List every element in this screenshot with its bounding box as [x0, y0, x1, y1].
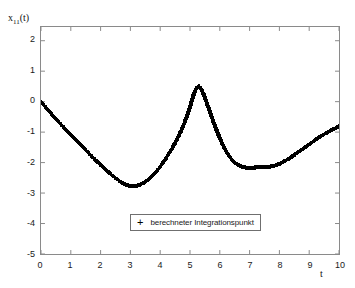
y-tick-label: -4	[19, 219, 35, 228]
x-tick-label: 8	[273, 261, 287, 270]
x-tick-label: 0	[33, 261, 47, 270]
y-axis-label-suffix: (t)	[20, 12, 29, 23]
y-tick-label: -3	[19, 189, 35, 198]
y-tick-label: -1	[19, 127, 35, 136]
x-axis-label: t	[320, 268, 323, 279]
y-tick-label: -2	[19, 158, 35, 167]
x-tick-label: 1	[63, 261, 77, 270]
y-axis-label: x11(t)	[8, 12, 29, 26]
legend-marker-plus-icon: +	[137, 217, 143, 228]
y-tick-label: -5	[19, 250, 35, 259]
legend-entry-label: berechneter Integrationspunkt	[150, 218, 253, 227]
y-tick-label: 2	[19, 35, 35, 44]
chart-legend: + berechneter Integrationspunkt	[130, 214, 261, 231]
x-tick-label: 10	[333, 261, 347, 270]
x-tick-label: 7	[243, 261, 257, 270]
x-tick-label: 5	[183, 261, 197, 270]
x-tick-label: 2	[93, 261, 107, 270]
x-tick-label: 4	[153, 261, 167, 270]
x-tick-label: 6	[213, 261, 227, 270]
x-tick-label: 3	[123, 261, 137, 270]
chart-screenshot: x11(t) t 210-1-2-3-4-5 012345678910 + be…	[0, 0, 355, 288]
y-tick-label: 0	[19, 96, 35, 105]
x-tick-label: 9	[303, 261, 317, 270]
y-axis-label-subscript: 11	[13, 18, 20, 26]
y-tick-label: 1	[19, 66, 35, 75]
